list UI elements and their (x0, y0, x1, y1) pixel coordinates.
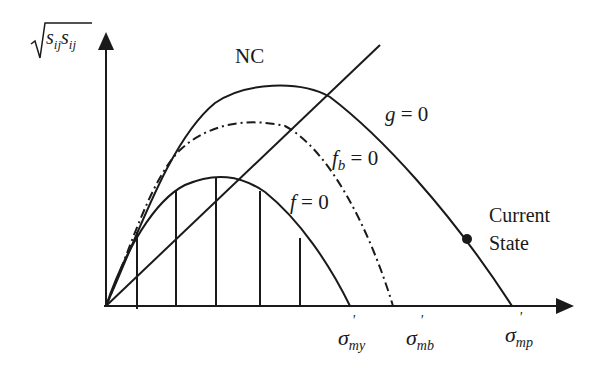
fb-label-rest: = 0 (345, 146, 378, 170)
y-axis-label: sijsij (46, 26, 76, 49)
x-tick-base: σ (406, 325, 417, 350)
f-label: f = 0 (290, 190, 329, 215)
g-label-rest: = 0 (396, 102, 429, 126)
nc-label: NC (235, 44, 264, 69)
y-label-s1: s (46, 26, 54, 48)
x-tick-prime: ' (519, 310, 522, 326)
current-state-label: Current State (489, 201, 550, 257)
x-tick-sigma-my: σ'my (338, 325, 365, 351)
x-tick-prime: ' (420, 313, 423, 329)
x-tick-sigma-mp: σ'mp (505, 322, 533, 348)
x-tick-sigma-mb: σ'mb (406, 325, 434, 351)
y-label-s2: s (61, 26, 69, 48)
x-tick-prime: ' (352, 313, 355, 329)
x-tick-base: σ (505, 322, 516, 347)
nc-line (106, 45, 380, 306)
current-state-line2: State (489, 229, 550, 257)
x-axis-arrow-icon (556, 298, 574, 314)
fb-label-sub: b (338, 157, 346, 173)
current-state-line1: Current (489, 201, 550, 229)
diagram-canvas: sijsij NC g = 0 fb = 0 f = 0 Current Sta… (0, 0, 600, 381)
x-tick-base: σ (338, 325, 349, 350)
x-tick-sub: mb (417, 338, 434, 353)
x-tick-sub: my (349, 338, 365, 353)
y-label-sub1: ij (54, 37, 61, 52)
y-axis-arrow-icon (98, 32, 114, 50)
g-label: g = 0 (385, 102, 428, 127)
g-label-base: g (385, 102, 396, 126)
current-state-dot-icon (462, 234, 472, 244)
fb-label: fb = 0 (332, 146, 378, 171)
x-tick-sub: mp (516, 335, 533, 350)
y-label-sub2: ij (69, 37, 76, 52)
fb-label-base: f (332, 146, 338, 170)
f-label-rest: = 0 (296, 190, 329, 214)
